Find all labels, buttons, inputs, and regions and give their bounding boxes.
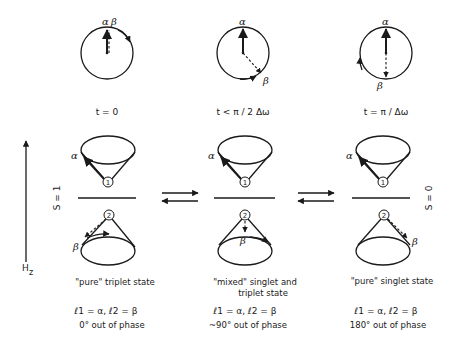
phase-label: 0° out of phase	[79, 320, 145, 330]
equilibrium-arrows-right	[298, 193, 334, 201]
caption-mixed: "mixed" singlet and triplet state ℓ1 = α…	[209, 277, 297, 330]
spin-phase-diagram: α β α β α β t = 0 t < π / 2 Δω t = π / Δ…	[0, 0, 461, 349]
equilibrium-arrows-left	[162, 193, 198, 201]
phase-label: 180° out of phase	[350, 320, 426, 330]
spin-assignment: ℓ1 = α, ℓ2 = β	[213, 306, 277, 316]
caption-triplet: "pure" triplet state ℓ1 = α, ℓ2 = β 0° o…	[74, 277, 155, 330]
state-title: "pure" triplet state	[75, 277, 155, 287]
state-title-line2: triplet state	[238, 288, 288, 298]
spin-assignment: ℓ1 = α, ℓ2 = β	[354, 306, 418, 316]
electron-1-label: 1	[243, 179, 247, 187]
time-label-quarter: t < π / 2 Δω	[216, 107, 269, 117]
alpha-label: α	[208, 150, 215, 161]
cone-pair-triplet: 1 α 2 β	[71, 136, 136, 265]
spin-label-singlet: S = 0	[424, 185, 434, 210]
phase-label: ~90° out of phase	[209, 320, 287, 330]
beta-label: β	[110, 16, 117, 27]
alpha-label: α	[239, 16, 246, 27]
beta-label: β	[376, 80, 383, 91]
electron-2-label: 2	[243, 212, 247, 220]
electron-1-label: 1	[106, 179, 110, 187]
field-axis-subscript: z	[29, 268, 33, 277]
phase-circle-quarter: α β	[217, 16, 269, 86]
beta-label: β	[411, 236, 418, 247]
electron-2-label: 2	[382, 212, 386, 220]
electron-2-label: 2	[107, 212, 111, 220]
electron-1-label: 1	[381, 179, 385, 187]
alpha-label: α	[382, 16, 389, 27]
beta-label: β	[262, 75, 269, 86]
time-label-half: t = π / Δω	[364, 107, 409, 117]
field-axis-label: H	[22, 263, 29, 273]
cone-pair-mixed: 1 α 2 β	[208, 136, 275, 265]
alpha-label: α	[102, 16, 109, 27]
alpha-label: α	[71, 150, 78, 161]
field-axis: H z	[22, 141, 33, 277]
spin-assignment: ℓ1 = α, ℓ2 = β	[74, 306, 138, 316]
beta-label: β	[239, 235, 246, 246]
state-title: "pure" singlet state	[351, 276, 434, 286]
phase-circle-t0: α β	[81, 16, 133, 79]
spin-label-triplet: S = 1	[52, 186, 62, 211]
state-title: "mixed" singlet and	[213, 277, 297, 287]
alpha-label: α	[346, 150, 353, 161]
beta-label: β	[72, 241, 79, 252]
cone-pair-singlet: 1 α 2 β	[346, 136, 418, 265]
time-label-t0: t = 0	[96, 107, 119, 117]
phase-circle-half: α β	[360, 16, 412, 91]
caption-singlet: "pure" singlet state ℓ1 = α, ℓ2 = β 180°…	[350, 276, 433, 330]
